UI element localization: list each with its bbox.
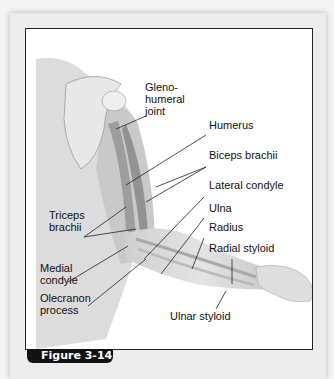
label-ulna: Ulna — [209, 202, 232, 214]
label-radius: Radius — [209, 221, 243, 233]
label-humerus: Humerus — [209, 119, 254, 131]
label-ulnar-styloid: Ulnar styloid — [170, 310, 231, 322]
label-triceps-brachii: Triceps brachii — [49, 209, 85, 233]
label-glenohumeral-joint: Gleno- humeral joint — [145, 81, 185, 117]
figure-frame: Gleno- humeral joint Humerus Biceps brac… — [25, 28, 313, 350]
label-radial-styloid: Radial styloid — [209, 242, 274, 254]
label-olecranon-process: Olecranon process — [40, 292, 91, 316]
label-biceps-brachii: Biceps brachii — [209, 149, 277, 161]
label-lateral-condyle: Lateral condyle — [209, 179, 284, 191]
figure-caption-tab: Figure 3-14 — [27, 349, 113, 363]
label-medial-condyle: Medial condyle — [40, 262, 78, 286]
